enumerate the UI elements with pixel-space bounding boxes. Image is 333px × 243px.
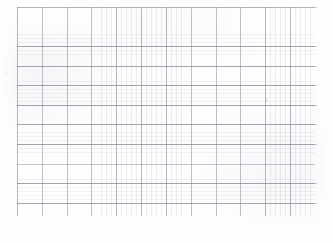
grid-sheet [0, 0, 333, 243]
grid-area [17, 7, 315, 216]
scan-speck-left [5, 72, 8, 75]
grid-major-lines [17, 7, 315, 216]
